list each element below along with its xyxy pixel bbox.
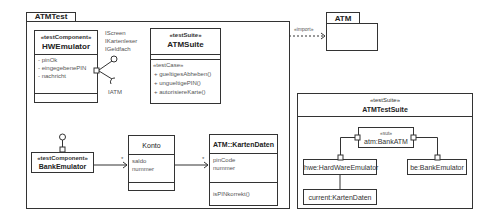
hwe-port-icon: [338, 155, 343, 160]
diagram-connectors: [0, 0, 497, 222]
hwemulator-port-icon: [94, 68, 99, 73]
be-port-icon: [435, 155, 440, 160]
bankemulator-lollipop-icon: [60, 134, 66, 140]
sut-left-port-icon: [355, 135, 360, 140]
provided-interface-lollipop-icon: [111, 56, 117, 62]
sut-right-port-icon: [411, 135, 416, 140]
bankemulator-port-icon: [60, 147, 65, 152]
